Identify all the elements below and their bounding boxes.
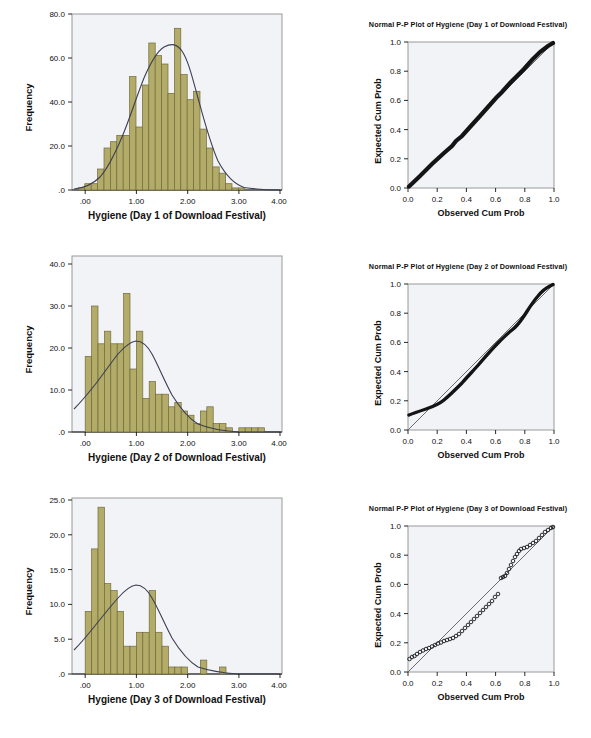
xtick-label: 4.00 [271, 681, 287, 690]
ytick-label: 5.0 [54, 635, 66, 644]
pp-ytick-label: 0.8 [390, 551, 402, 560]
pp-plot-svg-day1: 0.0 0.2 0.4 0.6 0.8 1.0 0.0 0.2 0.4 [352, 6, 584, 218]
pp-xtick-label: 0.8 [519, 437, 531, 446]
pp-ytick-label: 0.2 [390, 639, 402, 648]
pp-ytick-label: 0.0 [390, 426, 402, 435]
ytick-label: 25.0 [49, 496, 65, 505]
pp-ytick-label: 0.8 [390, 67, 402, 76]
pp-plot-panel-day3: Normal P-P Plot of Hygiene (Day 3 of Dow… [352, 490, 584, 722]
xtick-label: .00 [80, 439, 92, 448]
histogram-panel-day1: Frequency .0 20.0 40.0 60.0 80.0 [14, 6, 292, 238]
pp-ytick-label: 0.8 [390, 309, 402, 318]
ytick-label: 15.0 [49, 566, 65, 575]
ytick-label: .0 [58, 428, 65, 437]
xtick-label: 4.00 [271, 197, 287, 206]
histogram-panel-day2: Frequency .0 10.0 20.0 30.0 40.0 [14, 248, 292, 480]
histogram-ylabel-day2: Frequency [23, 314, 34, 386]
ytick-label: 20.0 [49, 142, 65, 151]
pp-xtick-label: 1.0 [548, 195, 560, 204]
ytick-label: 40.0 [49, 260, 65, 269]
pp-xtick-label: 0.4 [461, 437, 473, 446]
xtick-label: 4.00 [271, 439, 287, 448]
pp-xtick-label: 0.2 [432, 679, 444, 688]
histogram-panel-day3: Frequency .0 5.0 10.0 15.0 20.0 25.0 [14, 490, 292, 722]
pp-xtick-label: 0.0 [402, 195, 414, 204]
ytick-label: 20.0 [49, 531, 65, 540]
xtick-label: 1.00 [129, 681, 145, 690]
pp-plot-title-day2: Normal P-P Plot of Hygiene (Day 2 of Dow… [352, 262, 584, 271]
pp-xtick-label: 0.4 [461, 679, 473, 688]
pp-ylabel-day3: Expected Cum Prob [373, 555, 383, 655]
pp-xtick-label: 0.2 [432, 195, 444, 204]
pp-xtick-label: 0.8 [519, 195, 531, 204]
ytick-label: 30.0 [49, 302, 65, 311]
pp-ytick-label: 1.0 [390, 280, 402, 289]
histogram-ylabel-day1: Frequency [23, 72, 34, 144]
pp-xlabel-day1: Observed Cum Prob [408, 208, 554, 218]
pp-plot-svg-day2: 0.0 0.2 0.4 0.6 0.8 1.0 0.0 0.2 0.4 [352, 248, 584, 460]
pp-xlabel-day3: Observed Cum Prob [408, 692, 554, 702]
pp-xlabel-day2: Observed Cum Prob [408, 450, 554, 460]
pp-xtick-label: 0.6 [490, 195, 502, 204]
pp-ylabel-day1: Expected Cum Prob [373, 71, 383, 171]
pp-plot-svg-day3: 0.0 0.2 0.4 0.6 0.8 1.0 [352, 490, 584, 702]
pp-plot-panel-day2: Normal P-P Plot of Hygiene (Day 2 of Dow… [352, 248, 584, 480]
pp-xtick-label: 0.6 [490, 679, 502, 688]
pp-xtick-label: 1.0 [548, 437, 560, 446]
xtick-label: 3.00 [231, 439, 247, 448]
pp-ytick-label: 0.4 [390, 126, 402, 135]
xtick-label: 1.00 [129, 197, 145, 206]
pp-xtick-label: 0.6 [490, 437, 502, 446]
histogram-xlabel-day2: Hygiene (Day 2 of Download Festival) [62, 452, 292, 463]
xtick-label: 3.00 [231, 681, 247, 690]
pp-xtick-label: 0.8 [519, 679, 531, 688]
xtick-label: .00 [80, 681, 92, 690]
ytick-label: 10.0 [49, 600, 65, 609]
histogram-ylabel-day3: Frequency [23, 556, 34, 628]
pp-ytick-label: 0.4 [390, 610, 402, 619]
histogram-svg-day2: .0 10.0 20.0 30.0 40.0 [14, 248, 292, 460]
figure-page: Frequency .0 20.0 40.0 60.0 80.0 [0, 0, 591, 738]
pp-ytick-label: 1.0 [390, 522, 402, 531]
histogram-svg-day1: .0 20.0 40.0 60.0 80.0 [14, 6, 292, 218]
histogram-xlabel-day3: Hygiene (Day 3 of Download Festival) [62, 694, 292, 705]
pp-xtick-label: 0.0 [402, 437, 414, 446]
pp-ytick-label: 0.0 [390, 184, 402, 193]
pp-plot-title-day3: Normal P-P Plot of Hygiene (Day 3 of Dow… [352, 504, 584, 513]
pp-plot-title-day1: Normal P-P Plot of Hygiene (Day 1 of Dow… [352, 20, 584, 29]
pp-xtick-label: 0.4 [461, 195, 473, 204]
ytick-label: 20.0 [49, 344, 65, 353]
pp-ytick-label: 0.4 [390, 368, 402, 377]
pp-plot-panel-day1: Normal P-P Plot of Hygiene (Day 1 of Dow… [352, 6, 584, 238]
pp-ytick-label: 0.2 [390, 155, 402, 164]
xtick-label: 2.00 [180, 197, 196, 206]
ytick-label: .0 [58, 670, 65, 679]
pp-xtick-label: 1.0 [548, 679, 560, 688]
ytick-label: 80.0 [49, 10, 65, 19]
pp-ytick-label: 0.6 [390, 580, 402, 589]
ytick-label: 60.0 [49, 54, 65, 63]
pp-ytick-label: 0.6 [390, 96, 402, 105]
pp-xtick-label: 0.0 [402, 679, 414, 688]
pp-ylabel-day2: Expected Cum Prob [373, 313, 383, 413]
xtick-label: 3.00 [231, 197, 247, 206]
xtick-label: .00 [80, 197, 92, 206]
histogram-svg-day3: .0 5.0 10.0 15.0 20.0 25.0 [14, 490, 292, 702]
xtick-label: 2.00 [180, 439, 196, 448]
ytick-label: .0 [58, 186, 65, 195]
pp-ytick-label: 0.6 [390, 338, 402, 347]
pp-xtick-label: 0.2 [432, 437, 444, 446]
histogram-xlabel-day1: Hygiene (Day 1 of Download Festival) [62, 210, 292, 221]
xtick-label: 1.00 [129, 439, 145, 448]
pp-ytick-label: 1.0 [390, 38, 402, 47]
ytick-label: 10.0 [49, 386, 65, 395]
pp-ytick-label: 0.2 [390, 397, 402, 406]
xtick-label: 2.00 [180, 681, 196, 690]
ytick-label: 40.0 [49, 98, 65, 107]
pp-ytick-label: 0.0 [390, 668, 402, 677]
